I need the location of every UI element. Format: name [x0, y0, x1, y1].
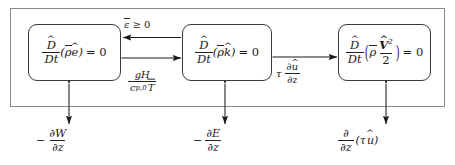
height-symbol: z	[292, 75, 297, 85]
dissipation-relation: ≥ 0	[129, 20, 150, 30]
flux-E-denominator: ∂z	[205, 140, 221, 153]
divergence-numerator: ∂	[341, 128, 351, 140]
paren-close: )	[396, 43, 400, 62]
operator-denominator: Dt	[42, 52, 60, 66]
buoyancy-fraction: gH cp,0T	[128, 70, 156, 93]
flux-W-fraction: ∂W ∂z	[47, 128, 68, 153]
W-symbol: W	[55, 128, 66, 139]
scale-height-symbol: H	[141, 70, 150, 80]
velocity-exponent: 2	[388, 38, 392, 46]
paren-open: (	[365, 43, 369, 62]
height-symbol: z	[58, 142, 64, 153]
height-symbol: z	[346, 142, 352, 153]
operator-numerator: D	[197, 40, 210, 53]
shear-numerator: ∂u	[285, 62, 301, 73]
velocity-symbol: u	[292, 62, 298, 72]
paren-close: )	[374, 135, 378, 146]
minus-sign: −	[193, 135, 204, 146]
minus-sign: −	[36, 135, 47, 146]
operator-denominator: Dt	[195, 52, 213, 66]
tau-symbol: τ	[276, 69, 282, 79]
flux-E-fraction: ∂E ∂z	[204, 128, 222, 153]
label-vertical-flux-E: − ∂E ∂z	[193, 128, 222, 153]
velocity-symbol: u	[367, 135, 374, 146]
rho-symbol: ρ	[370, 47, 377, 59]
height-symbol: z	[213, 142, 219, 153]
label-buoyancy-flux: gH cp,0T	[128, 70, 156, 93]
E-symbol: E	[212, 128, 220, 139]
equation-internal-energy: D Dt ( ρ e ) = 0	[42, 40, 106, 66]
flux-W-denominator: ∂z	[50, 140, 66, 153]
flux-W-numerator: ∂W	[47, 128, 68, 140]
label-shear-production: τ ∂u ∂z	[276, 62, 300, 85]
partial-symbol: ∂	[343, 128, 349, 139]
specific-heat-subscript: p,0	[136, 85, 147, 92]
temperature-symbol: T	[148, 83, 155, 93]
stress-divergence-fraction: ∂ ∂z	[338, 128, 354, 153]
operator-numerator: D	[348, 40, 361, 53]
buoyancy-numerator: gH	[133, 70, 152, 81]
shear-denominator: ∂z	[285, 73, 299, 85]
shear-fraction: ∂u ∂z	[285, 62, 301, 85]
velocity-squared-over-two: V2 2	[377, 39, 394, 66]
box-turbulent-kinetic-energy[interactable]: D Dt ( ρ k ) = 0	[182, 24, 272, 81]
operator-numerator: D	[45, 40, 58, 53]
material-derivative-operator: D Dt	[195, 40, 213, 66]
buoyancy-denominator: cp,0T	[128, 81, 156, 93]
epsilon-symbol: ε	[124, 20, 129, 30]
label-vertical-flux-W: − ∂W ∂z	[36, 128, 68, 153]
equation-mean-kinetic-energy: D Dt ( ρ V2 2 ) = 0	[346, 39, 423, 66]
diagram-canvas: D Dt ( ρ e ) = 0 D Dt ( ρ k ) = 0 D	[0, 0, 455, 165]
equation-turbulent-kinetic-energy: D Dt ( ρ k ) = 0	[195, 40, 259, 66]
divergence-denominator: ∂z	[338, 140, 354, 153]
flux-E-numerator: ∂E	[204, 128, 222, 140]
tau-symbol: τ	[360, 135, 366, 146]
equation-rhs: = 0	[83, 47, 107, 59]
equation-rhs: = 0	[401, 47, 424, 59]
material-derivative-operator: D Dt	[42, 40, 60, 66]
velocity-denominator: 2	[380, 53, 391, 67]
label-stress-divergence: ∂ ∂z ( τ u )	[338, 128, 378, 153]
box-mean-kinetic-energy[interactable]: D Dt ( ρ V2 2 ) = 0	[338, 24, 431, 81]
velocity-numerator: V2	[377, 39, 394, 53]
label-dissipation: ε ≥ 0	[124, 20, 150, 30]
velocity-magnitude-symbol: V	[379, 40, 388, 52]
specific-internal-energy-symbol: e	[72, 47, 79, 59]
box-internal-energy[interactable]: D Dt ( ρ e ) = 0	[28, 24, 121, 81]
equation-rhs: = 0	[235, 47, 259, 59]
operator-denominator: Dt	[346, 52, 364, 66]
material-derivative-operator: D Dt	[346, 40, 364, 66]
tke-symbol: k	[224, 47, 231, 59]
